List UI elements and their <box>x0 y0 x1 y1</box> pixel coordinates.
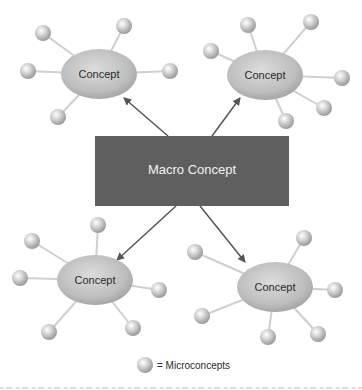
microconcept-sphere <box>90 217 106 233</box>
microconcept-sphere <box>12 270 28 286</box>
concept-label: Concept <box>245 69 286 81</box>
microconcept-sphere <box>151 282 167 298</box>
microconcept-sphere <box>116 18 132 34</box>
microconcept-sphere <box>310 326 326 342</box>
clipped-caption <box>0 384 362 390</box>
microconcept-sphere <box>203 43 219 59</box>
microconcept-sphere <box>20 63 36 79</box>
microconcept-sphere <box>35 25 51 41</box>
legend: = Microconcepts <box>137 357 230 373</box>
microconcept-sphere <box>194 308 210 324</box>
microconcept-sphere <box>41 324 57 340</box>
microconcept-sphere <box>327 282 343 298</box>
arrow-top-right <box>212 98 240 136</box>
microconcept-sphere <box>334 70 350 86</box>
concept-label: Concept <box>255 281 296 293</box>
microconcept-sphere <box>240 17 256 33</box>
microconcept-sphere <box>162 63 178 79</box>
concept-label: Concept <box>75 274 116 286</box>
arrow-bottom-right <box>200 206 245 262</box>
legend-label: = Microconcepts <box>157 360 230 371</box>
concept-node-top-right: Concept <box>203 14 350 129</box>
microconcept-sphere <box>50 109 66 125</box>
microconcept-sphere <box>24 233 40 249</box>
macro-concept-box: Macro Concept <box>95 136 289 206</box>
arrow-top-left <box>124 98 168 136</box>
microconcept-sphere <box>187 244 203 260</box>
microconcept-sphere <box>316 100 332 116</box>
sphere-icon <box>137 357 153 373</box>
microconcept-sphere <box>260 329 276 345</box>
concept-node-bottom-right: Concept <box>187 230 343 345</box>
arrow-bottom-left <box>117 206 176 260</box>
microconcept-sphere <box>296 230 312 246</box>
microconcept-sphere <box>303 14 319 30</box>
concept-map-diagram: Macro Concept ConceptConceptConceptConce… <box>0 0 362 390</box>
macro-concept-label: Macro Concept <box>148 162 237 177</box>
microconcept-sphere <box>278 113 294 129</box>
microconcept-sphere <box>125 320 141 336</box>
concept-label: Concept <box>79 68 120 80</box>
